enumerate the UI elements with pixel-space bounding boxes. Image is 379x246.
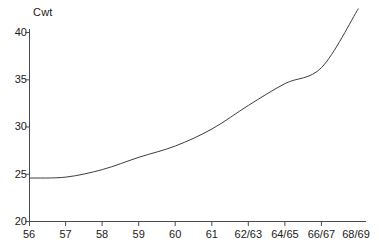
line-chart: Cwt 40 35 30 25 20 56 57 58 59 60 61 62/… [0,0,379,246]
chart-plot-area [0,0,379,246]
y-axis-ticks [25,33,30,222]
data-series-line [30,9,359,178]
x-axis-ticks [30,222,322,227]
